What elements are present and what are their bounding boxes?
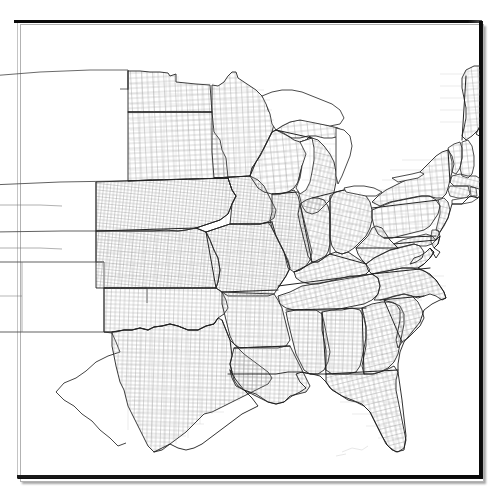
state-new-hampshire [460,140,474,178]
cape-cod [482,180,490,190]
state-kansas [96,228,220,288]
map-figure [0,0,497,493]
state-connecticut [448,186,470,198]
state-alabama [322,308,366,374]
state-nebraska [96,178,236,231]
state-rhode-island [470,187,477,196]
us-county-map [0,0,497,493]
scan-artifacts [336,446,368,456]
map-caption-area [0,481,497,493]
state-north-dakota [128,71,212,112]
state-delaware [431,230,440,248]
